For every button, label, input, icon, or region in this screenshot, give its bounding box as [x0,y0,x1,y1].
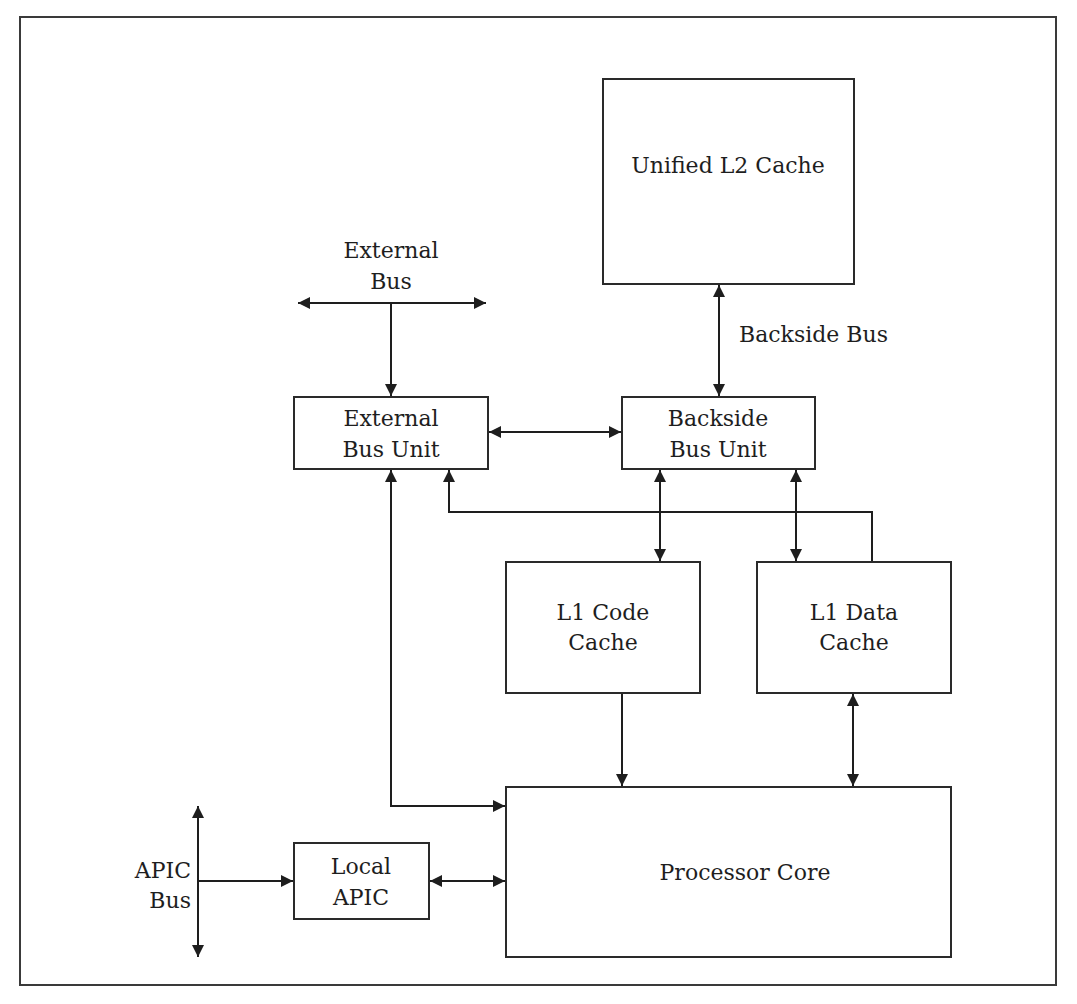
processor-block-diagram: Unified L2 Cache External Bus External B… [0,0,1077,1004]
svg-text:APIC: APIC [134,858,191,883]
l1-code-cache-block: L1 Code Cache [506,562,700,693]
local-apic-block: Local APIC [294,843,429,919]
processor-core-label: Processor Core [660,860,831,885]
l2-cache-label: Unified L2 Cache [631,153,825,178]
svg-text:Bus Unit: Bus Unit [342,437,439,462]
svg-text:L1 Data: L1 Data [810,600,898,625]
svg-text:Bus Unit: Bus Unit [669,437,766,462]
ebu-core-arrow [391,470,505,806]
external-bus-unit-block: External Bus Unit [294,397,488,469]
svg-text:Bus: Bus [149,888,191,913]
svg-text:External: External [343,238,438,263]
svg-text:APIC: APIC [332,885,389,910]
backside-bus-label: Backside Bus [739,322,888,347]
svg-text:Cache: Cache [819,630,888,655]
l1-data-cache-block: L1 Data Cache [757,562,951,693]
backside-bus-unit-block: Backside Bus Unit [622,397,815,469]
l2-cache-block: Unified L2 Cache [603,79,854,284]
svg-text:Local: Local [331,854,391,879]
svg-text:Bus: Bus [370,269,412,294]
apic-bus-label: APIC Bus [134,858,191,913]
svg-text:Cache: Cache [568,630,637,655]
external-bus-label: External Bus [343,238,438,294]
processor-core-block: Processor Core [506,787,951,957]
svg-text:Backside: Backside [668,406,768,431]
svg-text:External: External [343,406,438,431]
svg-text:L1 Code: L1 Code [557,600,650,625]
